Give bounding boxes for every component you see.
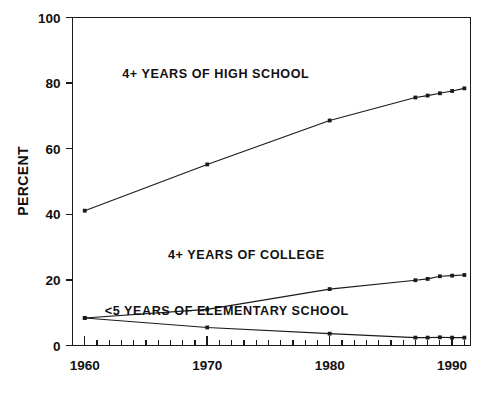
data-point-2-2 bbox=[328, 332, 332, 336]
y-tick-label-0: 0 bbox=[53, 339, 61, 354]
data-point-0-3 bbox=[413, 96, 417, 100]
x-tick-label-1960: 1960 bbox=[70, 358, 100, 373]
data-point-2-5 bbox=[438, 335, 442, 339]
y-tick-label-100: 100 bbox=[38, 11, 61, 26]
data-point-1-7 bbox=[462, 273, 466, 277]
data-point-2-1 bbox=[205, 326, 209, 330]
x-tick-label-1990: 1990 bbox=[437, 358, 467, 373]
data-point-2-6 bbox=[450, 336, 454, 340]
data-point-0-4 bbox=[426, 94, 430, 98]
data-point-2-4 bbox=[426, 336, 430, 340]
y-tick-label-20: 20 bbox=[45, 273, 60, 288]
y-axis-title: PERCENT bbox=[15, 146, 31, 216]
series-annotation-1: 4+ YEARS OF COLLEGE bbox=[168, 248, 325, 262]
data-point-0-5 bbox=[438, 91, 442, 95]
data-point-0-6 bbox=[450, 89, 454, 93]
data-point-1-4 bbox=[426, 277, 430, 281]
chart-container: 020406080100 1960197019801990 PERCENT 4+… bbox=[0, 0, 492, 397]
data-point-1-3 bbox=[413, 278, 417, 282]
education-attainment-line-chart: 020406080100 1960197019801990 PERCENT 4+… bbox=[0, 0, 492, 397]
data-point-2-7 bbox=[462, 336, 466, 340]
data-point-0-0 bbox=[83, 209, 87, 213]
y-tick-label-80: 80 bbox=[45, 76, 60, 91]
data-point-2-3 bbox=[413, 336, 417, 340]
series-annotation-2: <5 YEARS OF ELEMENTARY SCHOOL bbox=[105, 304, 349, 318]
data-point-0-2 bbox=[328, 119, 332, 123]
y-tick-label-60: 60 bbox=[45, 142, 60, 157]
data-point-0-1 bbox=[205, 163, 209, 167]
data-point-0-7 bbox=[462, 86, 466, 90]
y-tick-label-40: 40 bbox=[45, 207, 60, 222]
series-annotation-0: 4+ YEARS OF HIGH SCHOOL bbox=[122, 67, 309, 81]
x-tick-label-1970: 1970 bbox=[192, 358, 222, 373]
data-point-2-0 bbox=[83, 316, 87, 320]
x-tick-label-1980: 1980 bbox=[315, 358, 345, 373]
data-point-1-6 bbox=[450, 274, 454, 278]
data-point-1-5 bbox=[438, 274, 442, 278]
data-point-1-2 bbox=[328, 287, 332, 291]
